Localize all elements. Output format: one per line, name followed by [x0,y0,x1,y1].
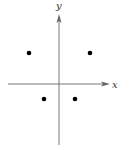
point-upper-left [27,51,32,56]
point-lower-right [73,97,78,102]
x-axis-label: x [112,79,118,90]
point-upper-right [88,51,93,56]
y-axis-label: y [55,0,62,11]
point-lower-left [42,97,47,102]
coordinate-plane: x y [0,0,129,150]
